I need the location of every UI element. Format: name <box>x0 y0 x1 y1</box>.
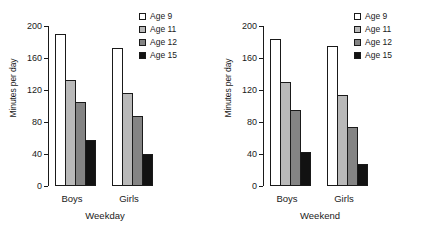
legend-swatch-icon-age-12 <box>354 39 361 46</box>
y-tick-label-80: 80 <box>247 118 257 127</box>
legend-label-age-12: Age 12 <box>150 38 177 47</box>
y-tick-label-0: 0 <box>37 182 42 191</box>
legend-label-age-11: Age 11 <box>365 25 391 34</box>
legend-item-age-11: Age 11 <box>139 25 177 34</box>
y-tick-label-160: 160 <box>27 54 42 63</box>
category-label-girls: Girls <box>321 193 367 204</box>
bar-group-boys <box>55 26 95 186</box>
legend-item-age-12: Age 12 <box>354 38 392 47</box>
legend-label-age-12: Age 12 <box>365 38 392 47</box>
y-tick-label-40: 40 <box>32 150 42 159</box>
bar-girls-age-15 <box>142 154 153 186</box>
y-axis-title-text: Minutes per day <box>8 58 18 117</box>
bar-boys-age-15 <box>300 152 311 186</box>
legend-weekday: Age 9 Age 11 Age 12 Age 15 <box>139 12 177 60</box>
bar-boys-age-15 <box>85 140 96 186</box>
category-label-girls: Girls <box>106 193 152 204</box>
legend-item-age-12: Age 12 <box>139 38 177 47</box>
two-panel-bar-chart-figure: Minutes per day 200 160 120 80 40 <box>0 0 430 225</box>
chart-panel-weekday: Minutes per day 200 160 120 80 40 <box>0 0 215 225</box>
legend-label-age-11: Age 11 <box>150 25 176 34</box>
y-tick-label-160: 160 <box>242 54 257 63</box>
category-label-boys: Boys <box>49 193 95 204</box>
legend-label-age-9: Age 9 <box>150 12 172 21</box>
legend-weekend: Age 9 Age 11 Age 12 Age 15 <box>354 12 392 60</box>
legend-item-age-15: Age 15 <box>354 51 392 60</box>
legend-item-age-11: Age 11 <box>354 25 392 34</box>
legend-item-age-9: Age 9 <box>354 12 392 21</box>
legend-item-age-9: Age 9 <box>139 12 177 21</box>
legend-swatch-icon-age-9 <box>354 13 361 20</box>
legend-swatch-icon-age-15 <box>354 52 361 59</box>
legend-label-age-15: Age 15 <box>150 51 177 60</box>
legend-swatch-icon-age-9 <box>139 13 146 20</box>
legend-label-age-15: Age 15 <box>365 51 392 60</box>
legend-swatch-icon-age-11 <box>354 26 361 33</box>
chart-panel-weekend: Minutes per day 200 160 120 80 40 <box>215 0 430 225</box>
legend-swatch-icon-age-11 <box>139 26 146 33</box>
legend-label-age-9: Age 9 <box>365 12 387 21</box>
category-label-boys: Boys <box>264 193 310 204</box>
y-tick-label-120: 120 <box>242 86 257 95</box>
y-tick-label-40: 40 <box>247 150 257 159</box>
y-tick-label-80: 80 <box>32 118 42 127</box>
y-axis-title: Minutes per day <box>4 0 22 175</box>
legend-item-age-15: Age 15 <box>139 51 177 60</box>
legend-swatch-icon-age-12 <box>139 39 146 46</box>
bar-girls-age-15 <box>357 164 368 186</box>
y-tick-label-120: 120 <box>27 86 42 95</box>
y-axis-title: Minutes per day <box>219 0 237 175</box>
x-axis-title: Weekday <box>40 210 170 221</box>
bar-group-boys <box>270 26 310 186</box>
legend-swatch-icon-age-15 <box>139 52 146 59</box>
y-tick-label-200: 200 <box>27 22 42 31</box>
y-axis-title-text: Minutes per day <box>223 58 233 117</box>
x-axis-title: Weekend <box>255 210 385 221</box>
y-tick-label-200: 200 <box>242 22 257 31</box>
y-tick-label-0: 0 <box>252 182 257 191</box>
